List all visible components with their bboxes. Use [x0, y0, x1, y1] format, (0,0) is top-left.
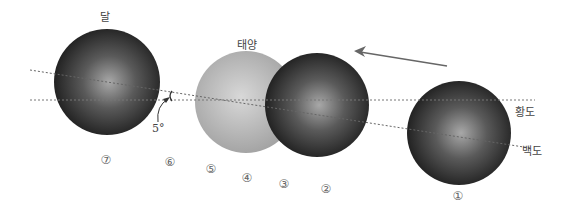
eclipse-diagram: 달 태양 황도 백도 5° ① ② ③ ④ ⑤ ⑥ ⑦ — [0, 0, 572, 217]
motion-arrow-shaft — [360, 52, 447, 66]
moon-label: 달 — [100, 8, 110, 24]
angle-label: 5° — [152, 122, 165, 135]
sun-label: 태양 — [237, 36, 257, 52]
angle-bracket — [170, 91, 172, 101]
position-2: ② — [321, 182, 332, 196]
position-6: ⑥ — [165, 155, 176, 169]
lunar-path-label: 백도 — [522, 142, 542, 158]
moon-position-2 — [265, 53, 369, 157]
position-1: ① — [453, 189, 464, 203]
position-3: ③ — [279, 177, 290, 191]
angle-pointer — [158, 99, 168, 122]
position-4: ④ — [242, 171, 253, 185]
moon-position-1 — [407, 81, 511, 185]
ecliptic-label: 황도 — [515, 103, 535, 119]
position-7: ⑦ — [101, 153, 112, 167]
arrow-left-icon — [354, 46, 366, 57]
position-5: ⑤ — [206, 162, 217, 176]
